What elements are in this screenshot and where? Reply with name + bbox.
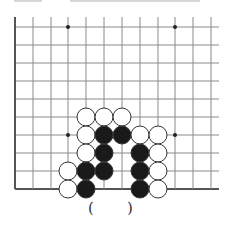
black-stone — [131, 144, 149, 162]
white-stone — [149, 180, 167, 198]
star-point-icon — [173, 25, 177, 29]
white-stone — [149, 162, 167, 180]
white-stone — [95, 108, 113, 126]
white-stone — [77, 126, 95, 144]
white-stone — [149, 144, 167, 162]
white-stone — [113, 108, 131, 126]
answer-close-paren: ) — [127, 201, 133, 216]
grid-lines — [15, 17, 219, 189]
star-point-icon — [66, 25, 70, 29]
white-stone — [59, 180, 77, 198]
white-stone — [149, 126, 167, 144]
black-stone — [113, 126, 131, 144]
black-stone — [95, 126, 113, 144]
go-board — [0, 0, 227, 225]
star-point-icon — [66, 133, 70, 137]
black-stone — [131, 162, 149, 180]
white-stone — [77, 108, 95, 126]
star-point-icon — [173, 133, 177, 137]
black-stone — [95, 162, 113, 180]
white-stone — [131, 126, 149, 144]
white-stone — [59, 162, 77, 180]
black-stone — [77, 162, 95, 180]
black-stone — [95, 144, 113, 162]
black-stone — [77, 180, 95, 198]
white-stone — [77, 144, 95, 162]
black-stone — [131, 180, 149, 198]
answer-open-paren: ( — [88, 201, 94, 216]
